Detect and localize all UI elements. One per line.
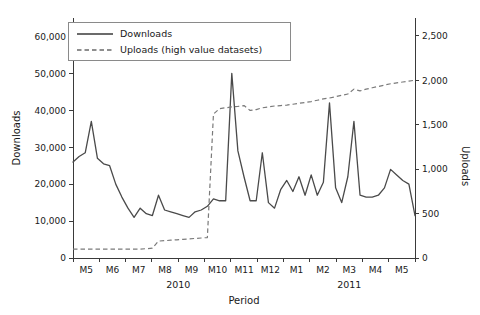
x-axis-tick-label: M7 <box>132 265 146 275</box>
left-axis-tick-label: 50,000 <box>35 69 67 79</box>
legend-item-label: Uploads (high value datasets) <box>120 44 262 55</box>
x-axis-tick-label: M9 <box>185 265 199 275</box>
right-axis: 05001,0001,5002,0002,500 <box>415 31 448 263</box>
x-axis-group-label: 2011 <box>337 279 361 290</box>
series-line-uploads <box>73 80 415 249</box>
data-series <box>73 73 415 249</box>
x-axis-group-label: 2010 <box>166 279 190 290</box>
right-axis-tick-label: 2,500 <box>422 31 448 41</box>
x-axis-tick-label: M5 <box>395 265 409 275</box>
left-axis: 010,00020,00030,00040,00050,00060,000 <box>35 32 74 264</box>
x-axis-tick-label: M11 <box>234 265 253 275</box>
right-axis-tick-label: 500 <box>422 209 439 219</box>
right-axis-tick-label: 2,000 <box>422 76 448 86</box>
left-axis-tick-label: 60,000 <box>35 32 67 42</box>
x-axis-tick-label: M5 <box>79 265 93 275</box>
right-axis-tick-label: 0 <box>422 253 428 263</box>
left-axis-tick-label: 30,000 <box>35 143 67 153</box>
right-axis-tick-label: 1,000 <box>422 164 448 174</box>
x-axis-tick-label: M12 <box>261 265 280 275</box>
left-axis-tick-label: 40,000 <box>35 106 67 116</box>
x-axis-tick-label: M4 <box>369 265 383 275</box>
x-axis-title: Period <box>228 295 259 306</box>
left-axis-tick-label: 10,000 <box>35 216 67 226</box>
chart-figure: 010,00020,00030,00040,00050,00060,000 05… <box>0 0 480 315</box>
x-axis-tick-label: M8 <box>158 265 172 275</box>
y2-axis-title: Uploads <box>460 146 471 186</box>
x-axis-tick-label: M6 <box>106 265 120 275</box>
left-axis-tick-label: 20,000 <box>35 179 67 189</box>
x-axis: M5M6M7M8M9M10M11M12M1M2M3M4M520102011 <box>73 258 415 290</box>
chart-legend: DownloadsUploads (high value datasets) <box>68 22 290 60</box>
legend-item-label: Downloads <box>120 28 172 39</box>
axis-titles: PeriodDownloadsUploads <box>11 111 471 306</box>
right-axis-tick-label: 1,500 <box>422 120 448 130</box>
downloads-uploads-line-chart: 010,00020,00030,00040,00050,00060,000 05… <box>0 0 480 315</box>
x-axis-tick-label: M10 <box>208 265 227 275</box>
x-axis-tick-label: M3 <box>342 265 356 275</box>
series-line-downloads <box>73 73 415 217</box>
x-axis-tick-label: M1 <box>290 265 304 275</box>
x-axis-tick-label: M2 <box>316 265 330 275</box>
left-axis-tick-label: 0 <box>60 253 66 263</box>
y-axis-title: Downloads <box>11 111 22 166</box>
